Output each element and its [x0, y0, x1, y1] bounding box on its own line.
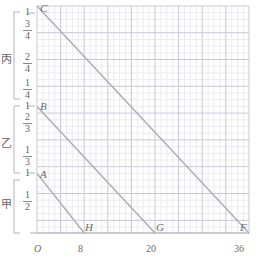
- point-label-G: G: [156, 221, 164, 233]
- x-tick-8: 8: [78, 243, 83, 254]
- y-tick-bing-2-4: 2 4: [23, 52, 32, 74]
- chart-figure: 丙 乙 甲 1 3 4 2 4 1 4 1 2 3 1 3 1 1 2 C B …: [0, 0, 256, 264]
- point-label-F: F: [240, 221, 247, 233]
- y-tick-jia-1: 1: [25, 167, 30, 178]
- point-label-A: A: [40, 168, 47, 180]
- y-tick-bing-1-4-den: 4: [25, 90, 30, 100]
- y-tick-bing-2-4-den: 4: [25, 64, 30, 74]
- x-tick-origin: O: [34, 243, 41, 254]
- y-tick-yi-1: 1: [25, 100, 30, 111]
- x-tick-20: 20: [146, 243, 156, 254]
- y-tick-yi-2-3-num: 2: [25, 112, 30, 122]
- y-tick-jia-1-2-num: 1: [25, 190, 30, 200]
- y-axis-group-label-bing: 丙: [1, 50, 12, 66]
- y-tick-yi-2-3: 2 3: [23, 112, 32, 134]
- y-tick-bing-3-4-den: 4: [25, 31, 30, 41]
- y-tick-bing-3-4-num: 3: [25, 19, 30, 29]
- y-tick-yi-1-3: 1 3: [23, 145, 32, 167]
- point-label-H: H: [85, 221, 93, 233]
- y-tick-bing-1-4-num: 1: [25, 78, 30, 88]
- y-axis-group-label-yi: 乙: [1, 134, 12, 150]
- bracket-jia: [14, 180, 20, 233]
- point-label-C: C: [40, 2, 47, 14]
- y-tick-bing-1-4: 1 4: [23, 78, 32, 100]
- y-axis-group-label-jia: 甲: [1, 195, 12, 211]
- bracket-bing: [14, 12, 20, 99]
- point-label-B: B: [40, 100, 47, 112]
- x-tick-36: 36: [234, 243, 244, 254]
- bracket-yi: [14, 106, 20, 173]
- y-axis-group-brackets: [14, 12, 20, 233]
- y-tick-bing-1: 1: [25, 6, 30, 17]
- chart-canvas: [0, 0, 256, 264]
- y-tick-yi-1-3-den: 3: [25, 157, 30, 167]
- y-tick-bing-3-4: 3 4: [23, 19, 32, 41]
- y-tick-jia-1-2-den: 2: [25, 202, 30, 212]
- y-tick-yi-2-3-den: 3: [25, 124, 30, 134]
- y-tick-bing-2-4-num: 2: [25, 52, 30, 62]
- y-tick-jia-1-2: 1 2: [23, 190, 32, 212]
- y-tick-yi-1-3-num: 1: [25, 145, 30, 155]
